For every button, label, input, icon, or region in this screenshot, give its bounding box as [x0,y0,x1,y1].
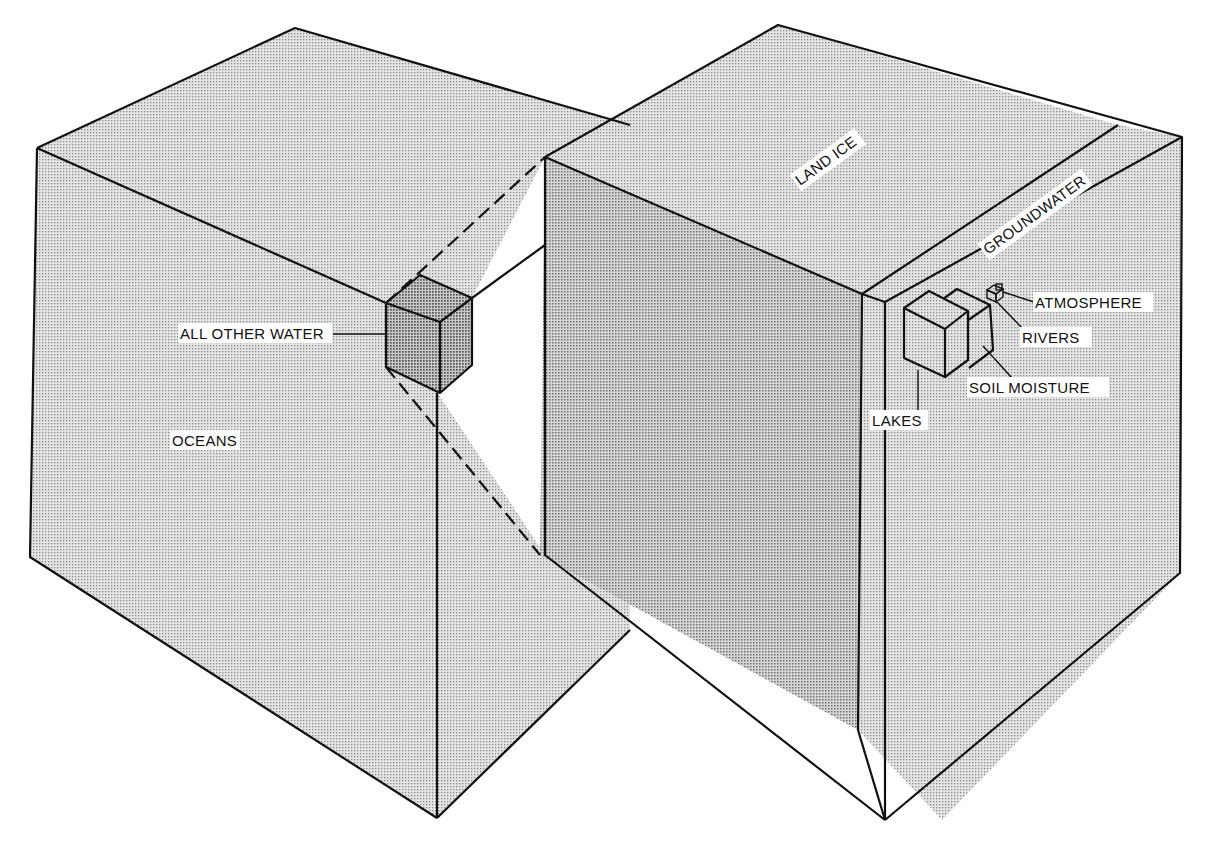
label-lakes: LAKES [872,412,922,429]
label-soil-moisture: SOIL MOISTURE [969,379,1090,396]
groundwater-left-strip [858,294,942,820]
water-distribution-diagram: ALL OTHER WATER OCEANS LAND ICE GROUNDWA… [0,0,1221,849]
label-oceans: OCEANS [172,432,237,449]
label-all-other-water: ALL OTHER WATER [180,325,324,342]
label-rivers: RIVERS [1022,329,1080,346]
label-atmosphere: ATMOSPHERE [1035,294,1142,311]
